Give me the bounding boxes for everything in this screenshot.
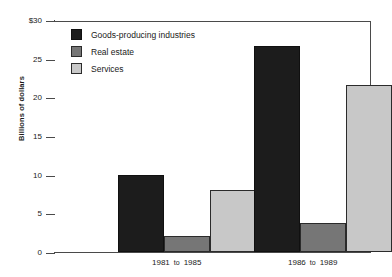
- y-tick-mark: [46, 176, 55, 177]
- y-tick-mark: [46, 98, 55, 99]
- bar-goods-group2: [254, 46, 300, 252]
- y-tick-mark: [46, 60, 55, 61]
- legend-label: Real estate: [91, 47, 134, 57]
- x-label-connector: to: [306, 259, 320, 266]
- legend-label: Services: [91, 64, 124, 74]
- y-tick-mark: [46, 253, 55, 254]
- legend-swatch-services: [71, 63, 82, 74]
- x-label-end: 1985: [184, 258, 202, 267]
- bar-realestate-group2: [300, 223, 346, 252]
- y-tick-label: 20: [2, 94, 42, 102]
- x-axis-label-group2: 1986to1989: [288, 258, 337, 267]
- legend-swatch-realestate: [71, 46, 82, 57]
- bar-realestate-group1: [164, 236, 210, 252]
- x-label-end: 1989: [320, 258, 338, 267]
- legend: Goods-producing industriesReal estateSer…: [71, 26, 195, 77]
- x-label-connector: to: [170, 259, 184, 266]
- bar-services-group2: [346, 85, 392, 252]
- y-tick-mark: [46, 21, 55, 22]
- y-tick-label: 15: [2, 133, 42, 141]
- legend-item: Services: [71, 60, 195, 77]
- legend-item: Goods-producing industries: [71, 26, 195, 43]
- legend-item: Real estate: [71, 43, 195, 60]
- y-tick-label: 10: [2, 172, 42, 180]
- y-tick-mark: [46, 214, 55, 215]
- y-tick-label: $30: [2, 17, 42, 25]
- x-label-start: 1981: [152, 258, 170, 267]
- bar-goods-group1: [118, 175, 164, 252]
- y-tick-label: 5: [2, 210, 42, 218]
- x-axis-label-group1: 1981to1985: [152, 258, 201, 267]
- y-tick-label: 0: [2, 249, 42, 257]
- x-label-start: 1986: [288, 258, 306, 267]
- legend-label: Goods-producing industries: [91, 30, 195, 40]
- y-tick-mark: [46, 137, 55, 138]
- legend-swatch-goods: [71, 29, 82, 40]
- y-tick-label: 25: [2, 56, 42, 64]
- bar-services-group1: [210, 190, 256, 252]
